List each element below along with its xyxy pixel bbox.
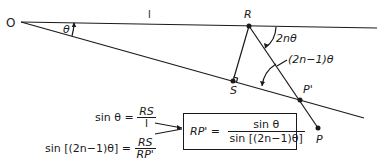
result-numerator: sin θ: [228, 118, 305, 132]
equation-sin-2n-minus-1-theta: sin [(2n−1)θ] = RS RP': [45, 137, 156, 160]
angle-label-leader: [277, 60, 287, 66]
segment-rs: [233, 26, 249, 81]
result-fraction: sin θ sin [(2n−1)θ]: [228, 118, 305, 145]
result-equation: RP' = sin θ sin [(2n−1)θ]: [190, 118, 305, 145]
result-box: RP' = sin θ sin [(2n−1)θ]: [183, 113, 297, 150]
label-r: R: [244, 9, 252, 20]
label-length-l: l: [148, 10, 151, 20]
eq2-fraction: RS RP': [135, 137, 156, 160]
point-p-prime: [298, 98, 303, 103]
label-p: P: [316, 134, 323, 145]
equation-sin-theta: sin θ = RS l: [95, 106, 156, 129]
eq1-fraction: RS l: [137, 106, 156, 129]
label-two-n-minus-one-theta: (2n−1)θ: [288, 54, 334, 65]
point-s: [231, 79, 236, 84]
label-s: S: [230, 85, 237, 96]
arrow-eq2: [155, 129, 182, 134]
label-p-prime: P': [303, 84, 313, 95]
two-n-minus-one-arrowhead-icon: [260, 81, 265, 86]
label-theta: θ: [63, 24, 70, 35]
result-lhs: RP' =: [190, 125, 220, 138]
point-r: [247, 24, 252, 29]
eq1-denominator: l: [137, 118, 156, 129]
label-two-n-theta: 2nθ: [276, 33, 297, 44]
eq2-lhs: sin [(2n−1)θ] =: [45, 142, 131, 155]
point-p: [316, 126, 321, 131]
result-denominator: sin [(2n−1)θ]: [228, 132, 305, 145]
eq2-denominator: RP': [135, 149, 156, 160]
lower-ray: [21, 22, 364, 118]
label-o: O: [6, 17, 15, 29]
eq1-lhs: sin θ =: [95, 111, 134, 124]
